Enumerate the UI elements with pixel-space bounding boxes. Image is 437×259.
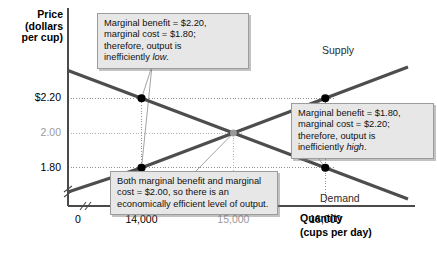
supply-curve-label: Supply xyxy=(322,44,354,56)
callout-efficient-line-3: economically efficient level of output. xyxy=(117,199,272,210)
callout-low-line-4-text: inefficiently low. xyxy=(104,52,169,62)
callout-low-line-1: Marginal benefit = $2.20, xyxy=(104,18,243,29)
supply-demand-chart: Price (dollars per cup) Quantity (cups p… xyxy=(0,0,437,259)
marker-demand-at-14000 xyxy=(137,94,145,102)
callout-high-line-1: Marginal benefit = $1.80, xyxy=(298,108,428,119)
callout-low-line-2: marginal cost = $1.80; xyxy=(104,29,243,40)
callout-inefficiently-low: Marginal benefit = $2.20, marginal cost … xyxy=(97,13,249,69)
marker-supply-at-16000 xyxy=(321,94,329,102)
callout-high-line-4-text: inefficiently high. xyxy=(298,142,367,152)
callout-high-line-4: inefficiently high. xyxy=(298,142,428,153)
callout-low-line-3: therefore, output is xyxy=(104,41,243,52)
callout-high-line-2: marginal cost = $2.20; xyxy=(298,119,428,130)
callout-efficient-line-2: cost = $2.00, so there is an xyxy=(117,187,272,198)
callout-efficient-line-1: Both marginal benefit and marginal xyxy=(117,176,272,187)
marker-equilibrium xyxy=(230,130,237,137)
callout-economically-efficient: Both marginal benefit and marginal cost … xyxy=(110,171,278,215)
marker-demand-at-16000 xyxy=(321,164,329,172)
callout-inefficiently-high: Marginal benefit = $1.80, marginal cost … xyxy=(291,103,434,159)
callout-low-line-4: inefficiently low. xyxy=(104,52,243,63)
callout-high-line-3: therefore, output is xyxy=(298,131,428,142)
demand-curve-label: Demand xyxy=(320,192,360,204)
